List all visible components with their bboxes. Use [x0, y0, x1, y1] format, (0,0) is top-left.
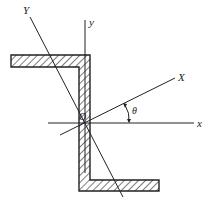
arc-arrowhead-bottom: [127, 119, 131, 123]
y-axis-label: y: [88, 16, 94, 28]
X-axis-label: X: [177, 71, 186, 83]
origin-label: O: [79, 111, 86, 122]
theta-label: θ: [132, 105, 137, 116]
X-principal-axis-line: [60, 78, 175, 135]
x-axis-label: x: [196, 117, 202, 129]
Y-axis-label: Y: [23, 4, 31, 16]
Y-principal-axis-line: [30, 17, 123, 197]
z-section-diagram: Y y X x O θ: [0, 0, 210, 205]
